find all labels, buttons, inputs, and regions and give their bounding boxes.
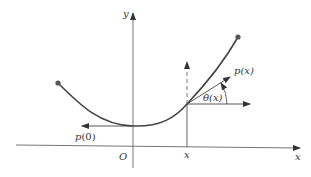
curve-start-point [55,80,60,85]
x-axis-label: x [295,151,301,162]
origin-label: O [119,151,127,162]
angle-label: θ(x) [203,92,223,103]
x-tick-label: x [184,149,190,160]
diagram-canvas: y x O x p(x) θ(x) p(0) [0,0,311,177]
curve-diagram: y x O x p(x) θ(x) p(0) [0,0,311,177]
curve [58,37,238,126]
y-axis-label: y [122,8,129,19]
tangent-vector-label: p(x) [234,65,254,76]
curve-end-point [235,34,240,39]
x-axis [16,145,300,148]
initial-vector-label: p(0) [75,131,96,142]
